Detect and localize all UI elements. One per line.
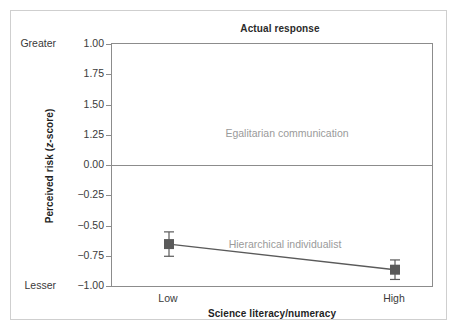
y-tick-label: −0.25 (60, 188, 104, 200)
x-axis-title: Science literacy/numeracy (111, 308, 433, 319)
y-tick-label: −0.50 (60, 219, 104, 231)
y-tick-label: −0.75 (60, 249, 104, 261)
y-tick-label: 1.50 (60, 98, 104, 110)
y-tick-label: −1.00 (60, 279, 104, 291)
series-annotation-egalitarian: Egalitarian communication (225, 127, 348, 139)
data-point-marker-square (164, 239, 174, 249)
y-tick-label: 1.25 (60, 128, 104, 140)
chart-title: Actual response (110, 23, 450, 34)
y-tick-mark (106, 226, 112, 227)
y-axis-title-part-2: -score) (44, 109, 55, 143)
y-axis-title-italic-z: z (44, 143, 55, 148)
y-tick-mark (106, 44, 112, 45)
y-tick-mark (106, 74, 112, 75)
plot-area: 1.00 Greater 1.75 1.50 1.25 0.00 −0.25 −… (111, 43, 433, 287)
y-tick-mark (106, 165, 112, 166)
x-tick-label-low: Low (158, 292, 177, 304)
y-tick-mark (106, 195, 112, 196)
y-axis-title-part-1: Perceived risk ( (44, 148, 55, 224)
y-tick-label: 0.00 (60, 158, 104, 170)
y-tick-mark (106, 135, 112, 136)
zero-reference-line (112, 165, 432, 166)
y-tick-label: 1.00 (60, 37, 104, 49)
y-tick-mark (106, 105, 112, 106)
y-tick-label: 1.75 (60, 67, 104, 79)
series-annotation-hierarchical: Hierarchical individualist (229, 238, 342, 250)
chart-figure: Actual response Perceived risk (z-score)… (0, 0, 459, 332)
y-axis-extreme-label-bottom: Lesser (6, 279, 56, 291)
data-point-marker-square (390, 265, 400, 275)
y-axis-extreme-label-top: Greater (6, 37, 56, 49)
y-tick-mark (106, 286, 112, 287)
series-layer (112, 44, 434, 288)
y-tick-mark (106, 256, 112, 257)
x-tick-label-high: High (383, 292, 405, 304)
y-axis-title: Perceived risk (z-score) (44, 109, 55, 224)
